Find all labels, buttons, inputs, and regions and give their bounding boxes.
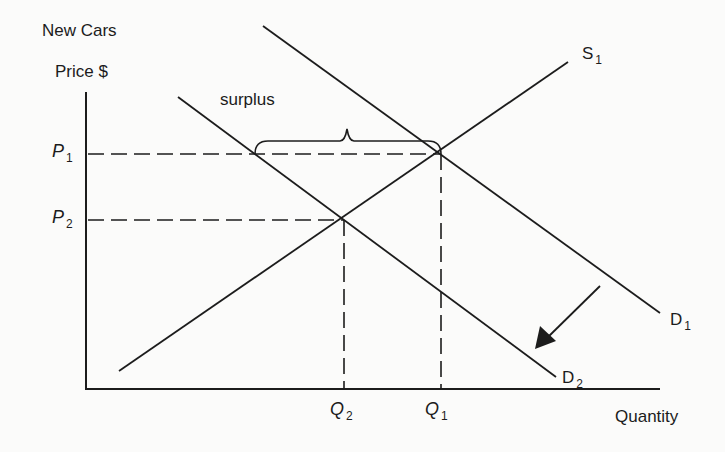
x-axis-label: Quantity (615, 408, 678, 425)
demand-curve-d2 (178, 97, 556, 377)
shift-arrow-shaft (546, 286, 600, 339)
p1-tick-label: P1 (52, 142, 73, 160)
shift-arrow-head (535, 326, 556, 349)
demand-curve-d1 (263, 26, 660, 313)
q1-tick-label: Q1 (425, 400, 448, 418)
s1-label: S1 (582, 45, 602, 62)
y-axis-label: Price $ (55, 63, 108, 80)
chart-title: New Cars (42, 22, 117, 39)
q2-tick-label: Q2 (330, 400, 353, 418)
surplus-brace (255, 129, 441, 154)
d2-label: D2 (562, 369, 583, 386)
p2-tick-label: P2 (52, 208, 73, 226)
d1-label: D1 (670, 311, 691, 328)
surplus-label: surplus (220, 91, 275, 108)
supply-demand-chart (0, 0, 725, 452)
